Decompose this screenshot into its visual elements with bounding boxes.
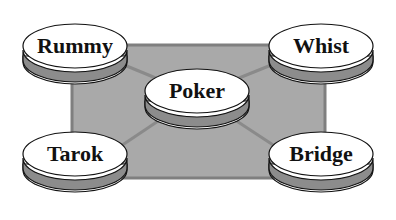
hub-label: Poker [169,78,225,103]
node-tarok: Tarok [23,132,127,192]
node-bridge: Bridge [269,132,373,192]
node-label: Tarok [47,141,104,166]
node-whist: Whist [269,24,373,84]
node-label: Whist [293,33,350,58]
node-rummy: Rummy [23,24,127,84]
node-label: Rummy [37,33,113,58]
node-label: Bridge [289,141,353,166]
card-games-diagram: Rummy Whist Poker Tarok Bridge [0,0,396,220]
node-poker-hub: Poker [145,69,249,129]
